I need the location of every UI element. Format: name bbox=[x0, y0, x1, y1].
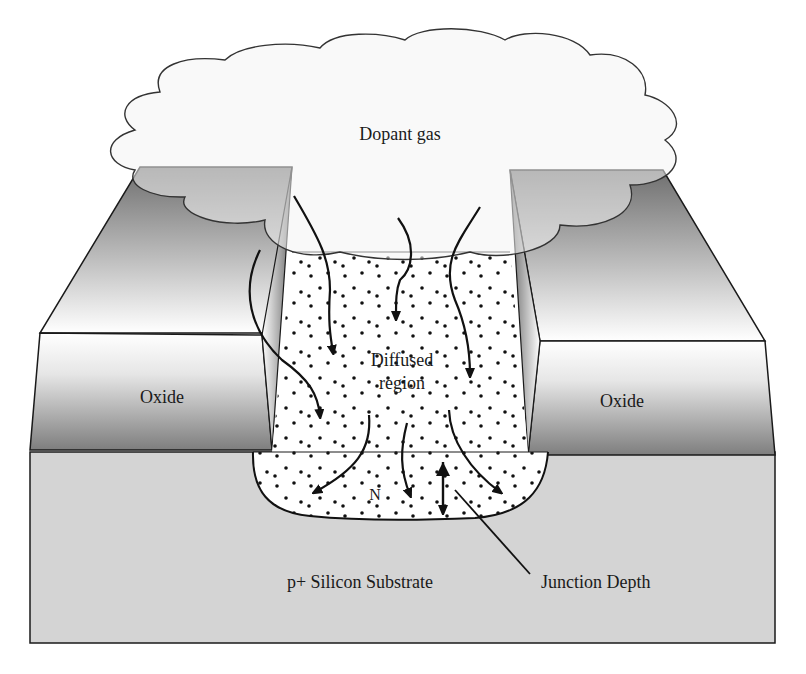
oxide-left-label: Oxide bbox=[140, 387, 184, 407]
diffused-region-label-line1: Diffused bbox=[371, 350, 434, 370]
diffusion-diagram: Dopant gas Diffused region Oxide Oxide N… bbox=[0, 0, 806, 674]
oxide-right-label: Oxide bbox=[600, 391, 644, 411]
substrate-label: p+ Silicon Substrate bbox=[287, 572, 433, 592]
n-region bbox=[253, 452, 548, 520]
diffused-region-label-line2: region bbox=[379, 373, 425, 393]
dopant-gas-label: Dopant gas bbox=[359, 124, 440, 144]
junction-depth-label: Junction Depth bbox=[541, 572, 651, 592]
n-region-label: N bbox=[369, 486, 381, 503]
